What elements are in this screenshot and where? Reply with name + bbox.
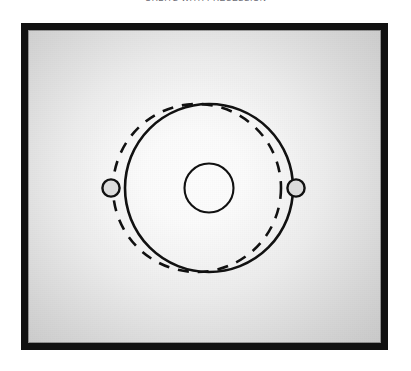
figure-title: ORBITS WITH PRECESSION (0, 0, 411, 3)
current-orbit-solid-path (125, 104, 293, 272)
orbit-diagram-svg (28, 30, 381, 343)
central-body-circle (185, 164, 234, 213)
precessed-orbit-dashed-path (113, 104, 281, 272)
orbiting-body-right (287, 179, 304, 196)
diagram-frame (21, 23, 388, 350)
orbiting-body-left (102, 179, 119, 196)
